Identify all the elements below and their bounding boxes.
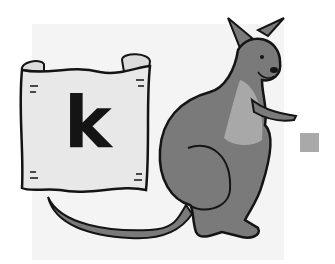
marker-square <box>300 133 319 152</box>
kangaroo-tail <box>48 197 192 238</box>
kangaroo <box>160 18 296 238</box>
scroll-letter: k <box>64 86 104 158</box>
illustration <box>0 0 335 264</box>
